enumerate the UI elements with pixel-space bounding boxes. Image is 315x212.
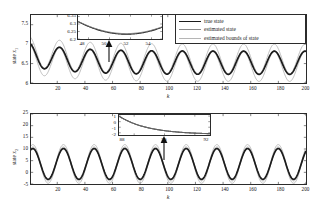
- yaxis-label-top-text: state x1: [11, 48, 17, 64]
- inset-top-xtick-2: 52: [124, 41, 129, 46]
- figure-canvas: 6 6.5 7 7.5 20 40 60 80 100 120 140 160 …: [0, 0, 315, 212]
- legend-label-true-state: true state: [204, 19, 224, 24]
- ytick-bot-0: -5: [14, 182, 28, 187]
- xtick-bot-6: 140: [221, 187, 229, 192]
- inset-top-ytick-1: 6.25: [56, 29, 76, 34]
- xtick-bot-2: 60: [111, 187, 116, 192]
- legend-label-estimated-bounds: estimated bounds of state: [204, 36, 259, 41]
- xtick-bot-8: 180: [277, 187, 285, 192]
- legend-swatch-estimated-bounds: [179, 38, 201, 39]
- inset-top-ytick-0: 6.2: [56, 37, 76, 42]
- ytick-bot-5: 20: [14, 122, 28, 127]
- legend-top: true state estimated state estimated bou…: [175, 14, 306, 44]
- xaxis-label-top: k: [167, 93, 170, 99]
- xtick-top-1: 40: [83, 86, 88, 91]
- xtick-bot-4: 100: [165, 187, 173, 192]
- xtick-top-3: 80: [139, 86, 144, 91]
- xaxis-label-bottom: k: [167, 194, 170, 200]
- xtick-top-5: 120: [193, 86, 201, 91]
- xtick-top-4: 100: [165, 86, 173, 91]
- xtick-top-8: 180: [277, 86, 285, 91]
- xtick-top-0: 20: [55, 86, 60, 91]
- xtick-bot-7: 160: [249, 187, 257, 192]
- inset-bottom: [118, 114, 211, 136]
- xtick-bot-5: 120: [193, 187, 201, 192]
- inset-top: [77, 14, 163, 40]
- legend-label-estimated-state: estimated state: [204, 27, 236, 32]
- yaxis-label-top: state x1: [11, 48, 19, 64]
- yaxis-label-bottom-text: state x2: [11, 149, 17, 165]
- inset-top-xtick-0: 48: [80, 41, 85, 46]
- inset-bottom-plot: [119, 115, 210, 135]
- inset-top-ytick-3: 6.35: [56, 13, 76, 18]
- inset-bot-xtick-0: 88: [120, 137, 125, 142]
- inset-top-ytick-2: 6.3: [56, 21, 76, 26]
- xtick-bot-1: 40: [83, 187, 88, 192]
- ytick-bot-6: 25: [14, 110, 28, 115]
- inset-top-plot: [78, 15, 162, 39]
- inset-pointer-arrow-bottom: [159, 136, 169, 160]
- legend-swatch-true-state: [179, 21, 201, 22]
- ytick-top-3: 7.5: [14, 21, 28, 26]
- xtick-bot-3: 80: [139, 187, 144, 192]
- yaxis-label-bottom: state x2: [11, 149, 19, 165]
- inset-bot-ytick-1: 0: [100, 120, 116, 125]
- legend-row-true-state: true state: [179, 17, 302, 26]
- legend-swatch-estimated-state: [179, 29, 201, 30]
- inset-bot-ytick-3: -2: [100, 132, 116, 137]
- inset-pointer-arrow-top: [104, 40, 114, 62]
- legend-row-estimated-bounds: estimated bounds of state: [179, 34, 302, 43]
- xtick-top-9: 200: [302, 86, 310, 91]
- xtick-top-7: 160: [249, 86, 257, 91]
- ytick-bot-4: 15: [14, 134, 28, 139]
- inset-top-xtick-3: 54: [146, 41, 151, 46]
- xtick-bot-0: 20: [55, 187, 60, 192]
- xtick-top-6: 140: [221, 86, 229, 91]
- legend-row-estimated-state: estimated state: [179, 26, 302, 35]
- ytick-top-0: 6: [14, 81, 28, 86]
- xtick-bot-9: 200: [302, 187, 310, 192]
- inset-bot-xtick-2: 92: [204, 137, 209, 142]
- inset-bot-ytick-2: -1: [100, 126, 116, 131]
- inset-bot-ytick-0: 1: [100, 114, 116, 119]
- xtick-top-2: 60: [111, 86, 116, 91]
- ytick-bot-1: 0: [14, 170, 28, 175]
- ytick-top-2: 7: [14, 41, 28, 46]
